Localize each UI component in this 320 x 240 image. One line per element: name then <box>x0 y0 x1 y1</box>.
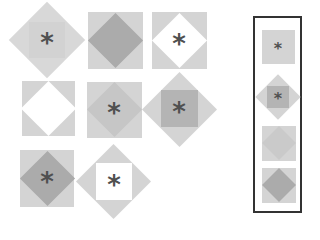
asterisk-icon: * <box>172 31 186 57</box>
asterisk-icon: * <box>40 169 54 195</box>
asterisk-icon: * <box>274 41 282 57</box>
asterisk-icon: * <box>274 91 282 107</box>
asterisk-icon: * <box>107 100 121 126</box>
asterisk-icon: * <box>172 99 186 125</box>
asterisk-icon: * <box>40 30 54 56</box>
asterisk-icon: * <box>107 172 121 198</box>
